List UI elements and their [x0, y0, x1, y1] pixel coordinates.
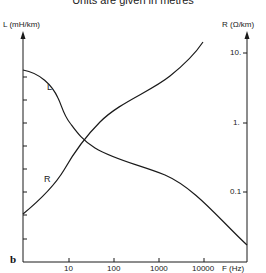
left-axis [21, 31, 28, 262]
r-curve-label: R [44, 174, 51, 184]
x-tick-100: 100 [107, 264, 120, 273]
panel-label: b [10, 253, 16, 265]
x-tick-10: 10 [64, 264, 73, 273]
x-axis [23, 258, 247, 262]
r-curve [23, 42, 203, 214]
x-tick-1000: 1000 [150, 264, 168, 273]
right-axis-arrow-icon [245, 31, 250, 39]
x-tick-10000: 10000 [192, 264, 214, 273]
x-axis-label: F (Hz) [222, 264, 244, 273]
right-tick-10: 10. [230, 48, 241, 57]
right-tick-0-1: 0.1 [230, 187, 241, 196]
left-axis-arrow-icon [21, 31, 26, 39]
l-curve-label: L [47, 82, 52, 92]
l-curve [23, 70, 247, 245]
right-axis [243, 31, 250, 262]
right-tick-1: 1. [233, 118, 240, 127]
